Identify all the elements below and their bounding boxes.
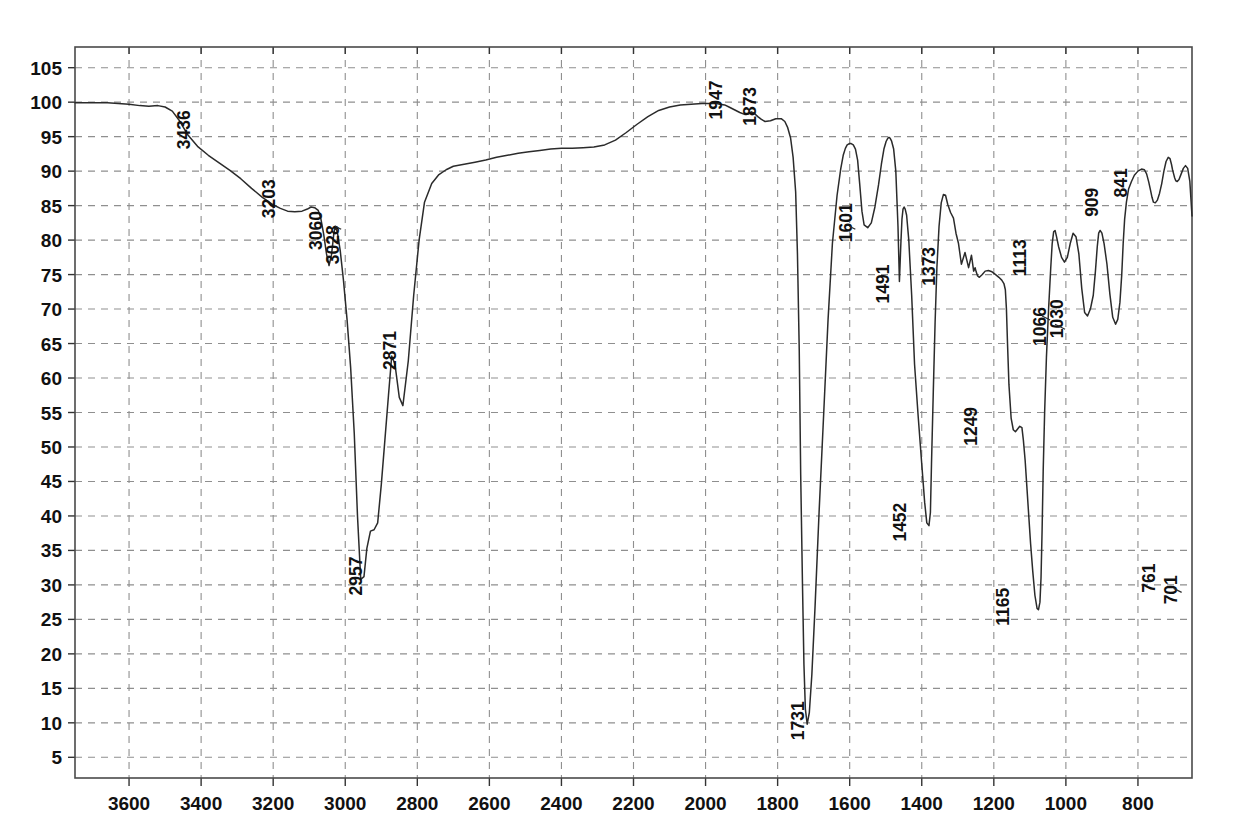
x-tick-label: 800 xyxy=(1122,793,1154,814)
x-tick-label: 3200 xyxy=(252,793,294,814)
y-tick-label: 25 xyxy=(41,609,63,630)
peak-label-909: 909 xyxy=(1082,187,1102,216)
x-tick-label: 3000 xyxy=(324,793,366,814)
y-tick-label: 105 xyxy=(30,58,62,79)
y-tick-label: 55 xyxy=(41,403,63,424)
x-tick-label: 1800 xyxy=(756,793,798,814)
y-tick-label: 20 xyxy=(41,644,62,665)
peak-label-1601: 1601 xyxy=(836,203,856,242)
y-tick-label: 85 xyxy=(41,196,63,217)
x-tick-label: 2400 xyxy=(540,793,582,814)
peak-label-2871: 2871 xyxy=(380,331,400,370)
y-tick-label: 30 xyxy=(41,575,62,596)
spectrum-chart: 5101520253035404550556065707580859095100… xyxy=(0,0,1237,840)
x-tick-label: 3600 xyxy=(108,793,150,814)
peak-label-3436: 3436 xyxy=(174,110,194,149)
y-tick-label: 80 xyxy=(41,230,62,251)
peak-label-701: 701 xyxy=(1161,575,1181,604)
y-tick-label: 100 xyxy=(30,92,62,113)
peak-label-1373: 1373 xyxy=(919,247,939,286)
peak-label-3028: 3028 xyxy=(323,225,343,264)
peak-label-1731: 1731 xyxy=(788,701,808,740)
y-tick-label: 50 xyxy=(41,437,62,458)
y-tick-label: 75 xyxy=(41,265,63,286)
x-tick-label: 2600 xyxy=(468,793,510,814)
x-tick-label: 2800 xyxy=(396,793,438,814)
x-tick-label: 1600 xyxy=(829,793,871,814)
x-tick-label: 1000 xyxy=(1045,793,1087,814)
peak-label-1452: 1452 xyxy=(890,502,910,541)
y-tick-label: 15 xyxy=(41,678,63,699)
x-axis-tick-labels: 3600340032003000280026002400220020001800… xyxy=(108,793,1154,814)
peak-label-841: 841 xyxy=(1111,168,1131,197)
peak-label-1165: 1165 xyxy=(993,587,1013,625)
y-tick-label: 95 xyxy=(41,127,63,148)
y-tick-label: 90 xyxy=(41,161,62,182)
y-tick-label: 45 xyxy=(41,471,63,492)
ir-spectrum-figure: 5101520253035404550556065707580859095100… xyxy=(0,0,1237,840)
y-tick-label: 65 xyxy=(41,334,63,355)
x-tick-label: 2000 xyxy=(684,793,726,814)
peak-label-1113: 1113 xyxy=(1010,239,1030,276)
peak-label-761: 761 xyxy=(1139,563,1159,592)
peak-label-3203: 3203 xyxy=(259,179,279,218)
x-tick-label: 1200 xyxy=(973,793,1015,814)
y-tick-label: 40 xyxy=(41,506,62,527)
x-tick-label: 2200 xyxy=(612,793,654,814)
peak-label-1030: 1030 xyxy=(1047,299,1067,338)
y-tick-label: 35 xyxy=(41,540,63,561)
y-tick-label: 60 xyxy=(41,368,62,389)
peak-label-1873: 1873 xyxy=(740,87,760,126)
x-tick-label: 1400 xyxy=(901,793,943,814)
y-tick-label: 10 xyxy=(41,713,62,734)
x-tick-label: 3400 xyxy=(180,793,222,814)
y-tick-label: 70 xyxy=(41,299,62,320)
peak-label-1249: 1249 xyxy=(961,407,981,446)
peak-label-2957: 2957 xyxy=(346,556,366,595)
y-tick-label: 5 xyxy=(51,747,62,768)
peak-label-1491: 1491 xyxy=(873,264,893,303)
peak-label-1947: 1947 xyxy=(706,81,726,120)
